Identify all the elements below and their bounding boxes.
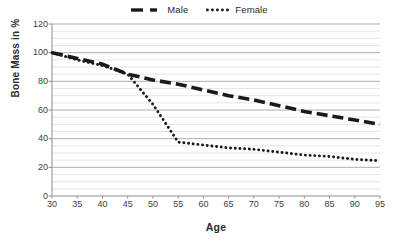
x-tick-label: 50 [140, 200, 166, 209]
x-tick-label: 30 [39, 200, 65, 209]
bone-mass-vs-age-chart: Male Female [0, 0, 398, 243]
x-axis-title: Age [52, 221, 380, 233]
x-tick-label: 80 [291, 200, 317, 209]
x-tick-label: 35 [64, 200, 90, 209]
x-tick-label: 60 [190, 200, 216, 209]
x-tick-label: 95 [367, 200, 393, 209]
x-tick-label: 65 [216, 200, 242, 209]
x-tick-label: 55 [165, 200, 191, 209]
x-tick-label: 45 [115, 200, 141, 209]
x-tick-label: 40 [90, 200, 116, 209]
y-axis-title: Bone Mass in % [10, 0, 21, 133]
x-tick-label: 70 [241, 200, 267, 209]
x-tick-label: 90 [342, 200, 368, 209]
x-tick-label: 85 [317, 200, 343, 209]
x-tick-label: 75 [266, 200, 292, 209]
x-axis-tick-labels: 30 35 40 45 50 55 60 65 70 75 80 85 90 9… [0, 0, 398, 243]
